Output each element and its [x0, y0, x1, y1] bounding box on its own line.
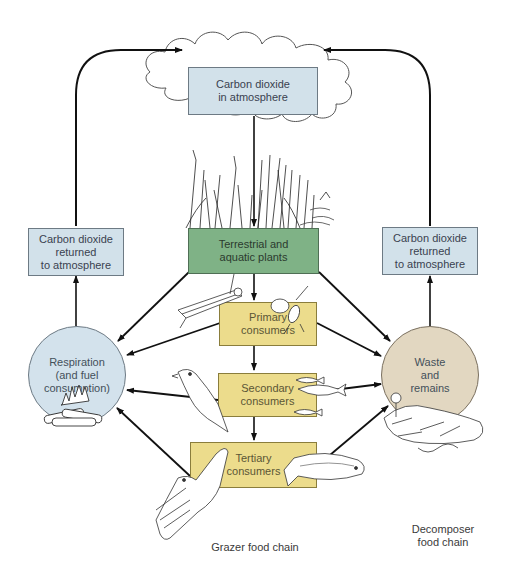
hawk-illustration [156, 448, 228, 539]
caption-decomposer-food-chain: Decomposer food chain [398, 523, 488, 549]
organism-illustrations [0, 0, 506, 572]
fish-school-illustration [294, 377, 346, 416]
caption-grazer-food-chain: Grazer food chain [200, 541, 310, 554]
grasshopper-illustration [178, 274, 242, 328]
caption-label: Decomposer food chain [412, 523, 474, 548]
aphids-illustration [271, 286, 308, 334]
caption-label: Grazer food chain [211, 541, 298, 553]
decomposer-debris-illustration [384, 393, 483, 452]
trout-illustration [284, 453, 364, 486]
bird-illustration [172, 369, 228, 432]
carbon-cycle-diagram: Carbon dioxide in atmosphere Carbon diox… [0, 0, 506, 572]
campfire-illustration [44, 385, 103, 426]
